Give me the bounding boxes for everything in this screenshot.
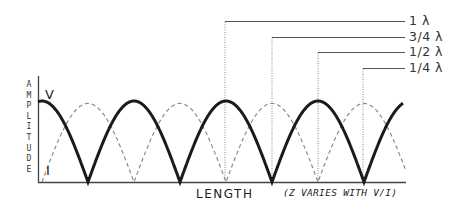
- marker-1-2-lambda: 1/2 λ: [409, 44, 443, 59]
- y-axis-label-letter: A: [25, 80, 33, 89]
- voltage-label: V: [45, 87, 54, 102]
- marker-1-lambda: 1 λ: [409, 13, 430, 28]
- y-axis-label-letter: P: [25, 101, 33, 110]
- y-axis-label-letter: D: [25, 154, 33, 163]
- current-label: I: [46, 163, 50, 178]
- y-axis-label-letter: M: [25, 91, 33, 100]
- impedance-note: (Z VARIES WITH V/I): [283, 187, 397, 198]
- y-axis-label-letter: E: [25, 165, 33, 174]
- wavelength-leaders: [225, 22, 405, 69]
- standing-wave-diagram: [0, 0, 450, 214]
- y-axis-label-letter: U: [25, 144, 33, 153]
- marker-1-4-lambda: 1/4 λ: [409, 60, 443, 75]
- voltage-curve: [38, 101, 403, 182]
- y-axis-label-letter: T: [25, 133, 33, 142]
- y-axis-label-letter: L: [25, 112, 33, 121]
- y-axis-label-letter: I: [25, 122, 33, 131]
- wavelength-dotted-guides: [225, 22, 363, 182]
- marker-3-4-lambda: 3/4 λ: [409, 29, 443, 44]
- x-axis-label: LENGTH: [196, 187, 253, 201]
